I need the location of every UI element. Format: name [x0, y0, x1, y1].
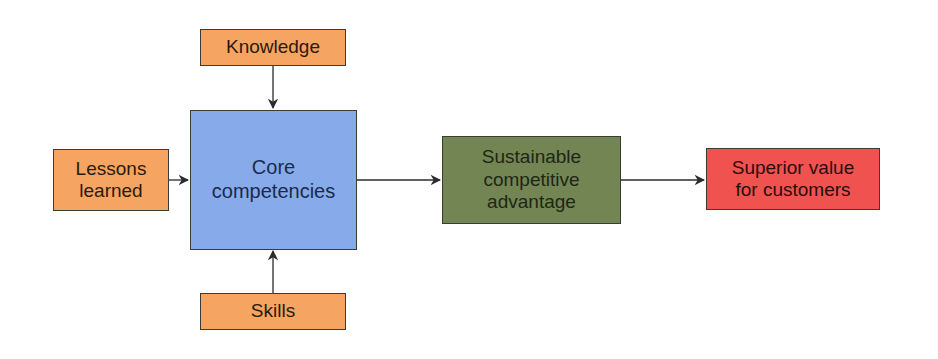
node-sustainable-competitive-advantage: Sustainable competitive advantage	[442, 136, 621, 224]
node-superior-value-for-customers: Superior value for customers	[706, 148, 880, 210]
node-core-competencies: Core competencies	[190, 110, 357, 250]
node-skills: Skills	[200, 293, 346, 330]
node-knowledge: Knowledge	[200, 29, 346, 66]
node-lessons-learned: Lessons learned	[53, 149, 169, 211]
